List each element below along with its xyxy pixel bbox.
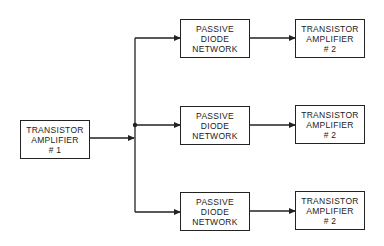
passive-diode-network-block-1: PASSIVE DIODE NETWORK (180, 19, 250, 58)
passive-diode-network-block-3: PASSIVE DIODE NETWORK (180, 192, 250, 231)
block-label-line: TRANSISTOR (301, 110, 359, 120)
block-label-line: DIODE (201, 207, 229, 217)
passive-diode-network-block-2: PASSIVE DIODE NETWORK (180, 106, 250, 145)
transistor-amplifier-2-block-2: TRANSISTOR AMPLIFIER # 2 (295, 105, 365, 144)
block-label-line: NETWORK (192, 44, 238, 54)
junction-dot (133, 123, 137, 127)
transistor-amplifier-2-block-1: TRANSISTOR AMPLIFIER # 2 (295, 19, 365, 58)
block-label-line: TRANSISTOR (301, 196, 359, 206)
block-label-line: NETWORK (192, 217, 238, 227)
block-label-line: # 1 (49, 145, 62, 155)
block-label-line: PASSIVE (196, 111, 234, 121)
block-label-line: TRANSISTOR (301, 24, 359, 34)
block-label-line: PASSIVE (196, 197, 234, 207)
block-label-line: DIODE (201, 34, 229, 44)
block-label-line: AMPLIFIER (31, 135, 79, 145)
block-label-line: # 2 (324, 44, 337, 54)
block-label-line: AMPLIFIER (306, 34, 354, 44)
block-label-line: PASSIVE (196, 24, 234, 34)
block-label-line: # 2 (324, 130, 337, 140)
block-label-line: DIODE (201, 121, 229, 131)
block-label-line: AMPLIFIER (306, 120, 354, 130)
block-label-line: AMPLIFIER (306, 206, 354, 216)
transistor-amplifier-1-block: TRANSISTOR AMPLIFIER # 1 (20, 120, 90, 159)
block-label-line: # 2 (324, 216, 337, 226)
block-label-line: TRANSISTOR (26, 125, 84, 135)
block-label-line: NETWORK (192, 131, 238, 141)
transistor-amplifier-2-block-3: TRANSISTOR AMPLIFIER # 2 (295, 191, 365, 230)
